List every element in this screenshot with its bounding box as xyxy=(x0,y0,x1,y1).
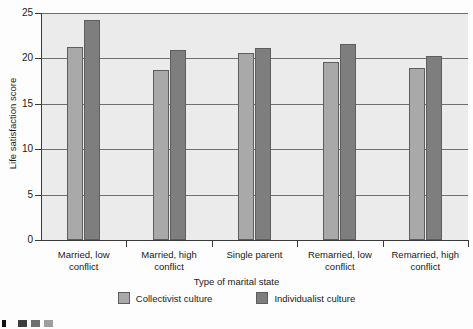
color-chip xyxy=(44,320,53,327)
y-tick-label: 5 xyxy=(27,190,33,200)
legend-label: Collectivist culture xyxy=(136,293,213,304)
bar xyxy=(153,70,169,240)
x-tick-mark xyxy=(212,241,213,247)
gridline xyxy=(41,13,468,14)
legend-item: Collectivist culture xyxy=(118,292,213,304)
y-tick-label: 15 xyxy=(22,99,33,109)
bar xyxy=(409,68,425,240)
bar xyxy=(323,62,339,240)
x-tick-mark xyxy=(383,241,384,247)
x-axis-category-label-line: Remarried, high xyxy=(383,249,468,261)
x-axis-category-label-line: Married, high xyxy=(126,249,211,261)
x-axis-category-label-line: Remarried, low xyxy=(297,249,382,261)
legend-swatch-icon xyxy=(256,292,268,304)
x-axis-category-label-line: Single parent xyxy=(212,249,297,261)
x-axis-category-label: Remarried, highconflict xyxy=(383,249,468,272)
bar xyxy=(67,47,83,240)
legend-label: Individualist culture xyxy=(274,293,355,304)
y-tick-mark xyxy=(35,58,41,59)
x-axis-category-label: Remarried, lowconflict xyxy=(297,249,382,272)
y-tick-mark xyxy=(35,240,41,241)
bar xyxy=(238,53,254,240)
color-chip xyxy=(2,320,6,327)
x-tick-mark xyxy=(297,241,298,247)
bar xyxy=(340,44,356,240)
x-tick-mark xyxy=(468,241,469,247)
color-chip xyxy=(31,320,40,327)
legend-swatch-icon xyxy=(118,292,130,304)
y-tick-mark xyxy=(35,13,41,14)
bottom-color-strip xyxy=(0,318,473,329)
chart-legend: Collectivist cultureIndividualist cultur… xyxy=(0,292,473,304)
y-axis-title: Life satisfaction score xyxy=(7,54,18,194)
y-tick-label: 20 xyxy=(22,53,33,63)
x-axis-category-label-line: conflict xyxy=(126,261,211,273)
x-axis-title: Type of marital state xyxy=(0,276,473,287)
y-tick-mark xyxy=(35,195,41,196)
x-axis-category-label: Married, highconflict xyxy=(126,249,211,272)
x-axis-line xyxy=(41,240,469,241)
legend-item: Individualist culture xyxy=(256,292,355,304)
x-axis-category-label-line: conflict xyxy=(383,261,468,273)
y-tick-label: 25 xyxy=(22,8,33,18)
y-tick-mark xyxy=(35,149,41,150)
bar xyxy=(84,20,100,240)
chart-page: 0510152025 Married, lowconflictMarried, … xyxy=(0,0,473,329)
x-axis-category-label: Married, lowconflict xyxy=(41,249,126,272)
x-axis-category-label-line: conflict xyxy=(297,261,382,273)
y-tick-mark xyxy=(35,104,41,105)
y-tick-label: 0 xyxy=(27,235,33,245)
bar xyxy=(255,48,271,240)
x-axis-category-label-line: conflict xyxy=(41,261,126,273)
bar xyxy=(170,50,186,240)
y-tick-label: 10 xyxy=(22,144,33,154)
bar xyxy=(426,56,442,240)
x-axis-category-label: Single parent xyxy=(212,249,297,261)
color-chip xyxy=(18,320,27,327)
x-axis-category-label-line: Married, low xyxy=(41,249,126,261)
y-axis-line xyxy=(41,13,42,241)
x-tick-mark xyxy=(126,241,127,247)
